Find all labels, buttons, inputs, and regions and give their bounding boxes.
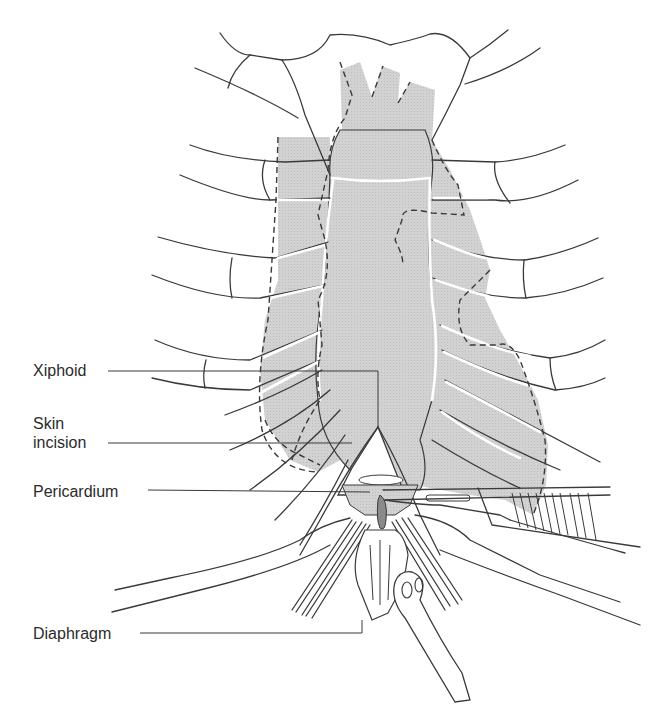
skin-incision-label: Skin incision <box>33 414 86 452</box>
xiphoid-label: Xiphoid <box>33 361 86 380</box>
anatomy-illustration <box>0 0 648 715</box>
pericardium-label: Pericardium <box>33 482 118 501</box>
diaphragm-label: Diaphragm <box>33 624 111 643</box>
